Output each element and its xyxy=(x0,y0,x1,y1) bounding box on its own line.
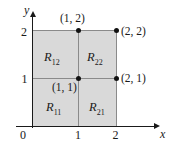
region-label-R21-sub: 21 xyxy=(97,108,105,117)
y-axis-tick-label-1: 1 xyxy=(22,73,28,85)
region-label-R21-base: R xyxy=(89,100,97,114)
region-label-R21: R21 xyxy=(89,101,105,117)
y-axis-label: y xyxy=(24,4,29,16)
x-axis xyxy=(16,126,156,127)
point-marker-2-2 xyxy=(114,28,119,33)
region-label-R12-sub: 12 xyxy=(52,58,60,67)
point-marker-1-1 xyxy=(76,76,81,81)
region-label-R22-base: R xyxy=(87,50,95,64)
y-axis-arrow-icon xyxy=(30,11,36,17)
point-marker-2-1 xyxy=(114,76,119,81)
grid-line-horizontal-y1 xyxy=(33,78,116,79)
y-axis xyxy=(32,16,33,128)
point-label-1-1: (1, 1) xyxy=(52,82,77,94)
region-label-R12: R12 xyxy=(44,51,60,67)
point-label-2-1: (2, 1) xyxy=(121,73,146,85)
region-label-R11-base: R xyxy=(46,100,54,114)
region-edge-top xyxy=(33,30,117,31)
x-axis-tick-label-2: 2 xyxy=(113,129,119,141)
x-axis-tick-label-1: 1 xyxy=(75,129,81,141)
region-label-R11: R11 xyxy=(46,101,61,117)
point-label-2-2: (2, 2) xyxy=(121,26,146,38)
region-label-R12-base: R xyxy=(44,50,52,64)
x-axis-label: x xyxy=(160,128,165,140)
point-label-1-2: (1, 2) xyxy=(60,13,85,25)
figure-canvas: (1, 2) (2, 2) (1, 1) (2, 1) 2 1 0 1 2 y … xyxy=(0,0,175,149)
region-label-R11-sub: 11 xyxy=(54,108,62,117)
y-axis-tick-label-2: 2 xyxy=(21,26,27,38)
region-label-R22: R22 xyxy=(87,51,103,67)
origin-label: 0 xyxy=(20,129,26,141)
region-label-R22-sub: 22 xyxy=(95,58,103,67)
